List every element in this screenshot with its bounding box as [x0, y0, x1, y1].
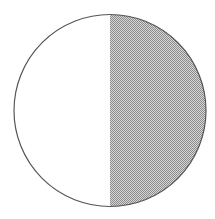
- circle-diagram-svg: [0, 0, 215, 219]
- unshaded-half: [14, 15, 110, 207]
- fraction-diagram: [0, 0, 215, 219]
- shaded-half: [110, 15, 206, 207]
